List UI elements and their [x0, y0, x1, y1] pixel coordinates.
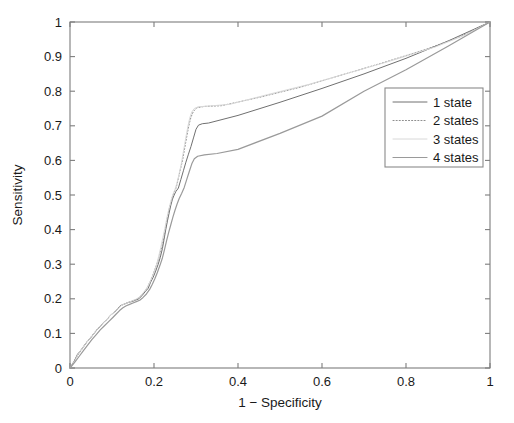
- legend-label-4: 4 states: [433, 150, 479, 165]
- y-tick-label: 0: [55, 361, 62, 376]
- y-axis-tick-labels: 00.10.20.30.40.50.60.70.80.91: [44, 15, 62, 376]
- roc-curve-series-4: [70, 22, 490, 368]
- x-axis-ticks: [70, 22, 490, 368]
- roc-curves: [70, 22, 490, 368]
- roc-curve-series-3: [70, 22, 490, 368]
- y-tick-label: 1: [55, 15, 62, 30]
- x-axis-tick-labels: 00.20.40.60.81: [66, 374, 493, 389]
- y-tick-label: 0.2: [44, 291, 62, 306]
- y-tick-label: 0.6: [44, 153, 62, 168]
- x-tick-label: 0.6: [313, 374, 331, 389]
- x-tick-label: 0.8: [397, 374, 415, 389]
- roc-figure: 00.20.40.60.81 00.10.20.30.40.50.60.70.8…: [0, 0, 514, 423]
- plot-frame: [70, 22, 490, 368]
- y-axis-ticks: [70, 22, 490, 368]
- x-tick-label: 0: [66, 374, 73, 389]
- y-tick-label: 0.5: [44, 188, 62, 203]
- y-tick-label: 0.9: [44, 49, 62, 64]
- x-axis-title: 1 − Specificity: [238, 395, 322, 410]
- legend[interactable]: 1 state2 states3 states4 states: [385, 88, 483, 167]
- roc-plot-svg: 00.20.40.60.81 00.10.20.30.40.50.60.70.8…: [0, 0, 514, 423]
- x-tick-label: 0.4: [229, 374, 247, 389]
- x-tick-label: 1: [486, 374, 493, 389]
- y-tick-label: 0.8: [44, 84, 62, 99]
- y-tick-label: 0.7: [44, 118, 62, 133]
- y-tick-label: 0.1: [44, 326, 62, 341]
- y-tick-label: 0.3: [44, 257, 62, 272]
- y-tick-label: 0.4: [44, 222, 62, 237]
- legend-label-1: 1 state: [433, 95, 472, 110]
- roc-curve-series-2: [70, 22, 490, 368]
- legend-label-3: 3 states: [433, 132, 479, 147]
- legend-label-2: 2 states: [433, 113, 479, 128]
- x-tick-label: 0.2: [145, 374, 163, 389]
- y-axis-title: Sensitivity: [10, 164, 25, 225]
- roc-curve-series-1: [70, 22, 490, 368]
